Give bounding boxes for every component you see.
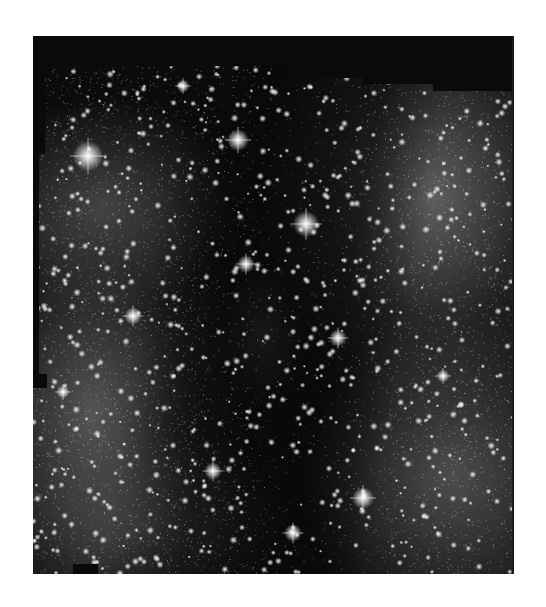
mosaic-gap bbox=[33, 154, 39, 374]
mosaic-gap bbox=[33, 36, 45, 154]
frame-edge bbox=[512, 36, 514, 574]
mosaic-gap bbox=[73, 564, 98, 574]
sky-background bbox=[33, 36, 514, 574]
star-field bbox=[33, 36, 514, 574]
mosaic-gap bbox=[433, 36, 514, 91]
mosaic-gap bbox=[33, 374, 47, 388]
starfield-image bbox=[33, 36, 514, 574]
